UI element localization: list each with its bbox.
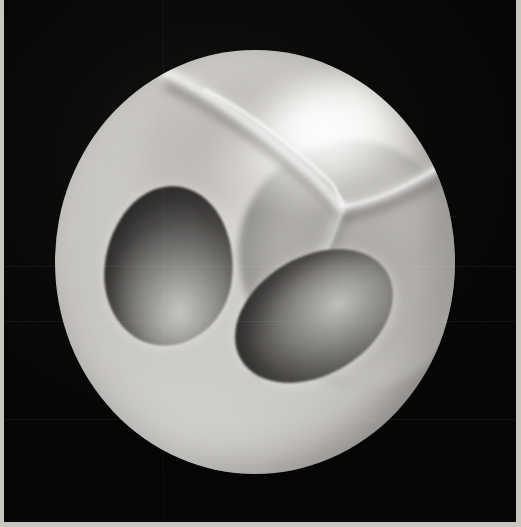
sphere xyxy=(55,50,455,474)
lower-right-ovoid-cavity xyxy=(211,222,417,411)
paper-margin-left xyxy=(0,0,4,527)
paper-margin-bottom xyxy=(0,522,521,527)
left-ovoid-cavity xyxy=(97,180,241,353)
paper-margin-right xyxy=(516,0,521,527)
photographic-field xyxy=(4,0,516,522)
specular-highlight xyxy=(188,50,455,242)
specular-highlight-core xyxy=(244,65,387,170)
artwork-frame: Sphere with Y-ridge and three concave ov… xyxy=(0,0,521,527)
